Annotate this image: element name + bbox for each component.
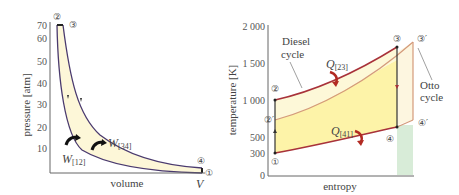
pv-x-axis-label: volume: [111, 177, 144, 189]
ts-y-ticks: 2 000 1 500 1 000 500 300 0: [243, 21, 266, 181]
state-point-3: [396, 46, 399, 49]
pv-y-axis-label: pressure [atm]: [20, 73, 32, 136]
point-1-label: ①: [271, 157, 279, 167]
ytick: 500: [250, 132, 265, 143]
otto-label-cycle: cycle: [420, 91, 443, 103]
ts-y-axis-label: temperature [K]: [226, 65, 238, 136]
ytick: 50: [37, 56, 47, 67]
otto-leader-line: [418, 48, 432, 80]
point-3-label: ③: [69, 20, 77, 30]
ytick: 40: [37, 78, 47, 89]
ytick: 20: [37, 122, 47, 133]
heat-out-arrow-head-icon: [357, 140, 364, 146]
diesel-label-cycle: cycle: [281, 48, 304, 60]
state-point-4: [396, 126, 399, 129]
pv-y-ticks: 70 60 50 40 30 20 10: [37, 20, 47, 154]
ytick: 60: [37, 33, 47, 44]
point-2prime-label: ②′: [264, 115, 274, 125]
direction-arrow-icon: [80, 98, 82, 102]
ts-diagram: 2 000 1 500 1 000 500 300 0 temperature …: [226, 21, 443, 192]
ytick: 30: [37, 99, 47, 110]
pv-diagram: 70 60 50 40 30 20 10 pressure [atm] volu…: [20, 12, 213, 191]
ytick: 1 500: [243, 58, 266, 69]
rejected-heat-difference-area: [397, 125, 413, 175]
point-2-label: ②: [271, 84, 279, 94]
diagram-canvas: 70 60 50 40 30 20 10 pressure [atm] volu…: [0, 0, 459, 195]
ytick: 1 000: [243, 95, 266, 106]
point-1-label: ①: [205, 168, 213, 178]
point-4prime-label: ④′: [418, 118, 428, 128]
ytick: 10: [37, 143, 47, 154]
point-4-label: ④: [386, 134, 394, 144]
ts-x-axis-label: entropy: [323, 180, 357, 192]
diesel-leader-line: [290, 62, 302, 88]
work-12-label: W[12]: [62, 152, 86, 167]
point-2-label: ②: [53, 12, 61, 22]
point-3prime-label: ③′: [417, 34, 427, 44]
point-3-label: ③: [393, 34, 401, 44]
ytick: 70: [37, 20, 47, 31]
heat-23-label: Q[23]: [326, 57, 348, 72]
point-4-label: ④: [197, 156, 205, 166]
otto-label: Otto: [420, 79, 440, 91]
ytick: 0: [260, 170, 265, 181]
diesel-label: Diesel: [282, 35, 310, 47]
volume-end-label: V: [196, 177, 205, 191]
state-point-2: [274, 99, 277, 102]
work-34-label: W[34]: [108, 136, 132, 151]
ytick: 2 000: [243, 21, 266, 32]
ytick: 300: [250, 148, 265, 159]
state-point-1: [274, 152, 277, 155]
